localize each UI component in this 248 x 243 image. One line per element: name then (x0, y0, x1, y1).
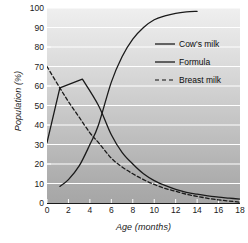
x-tick-label: 12 (164, 206, 188, 215)
x-tick-label: 2 (56, 206, 80, 215)
y-tick-label: 70 (4, 62, 44, 71)
y-tick-label: 60 (4, 82, 44, 91)
x-tick-marks (47, 199, 240, 203)
y-tick-label: 20 (4, 160, 44, 169)
x-tick-label: 16 (207, 206, 231, 215)
legend-swatch-solid-icon (155, 57, 175, 67)
legend-label: Breast milk (179, 76, 221, 85)
x-tick-label: 0 (35, 206, 59, 215)
legend-swatch-solid-icon (155, 39, 175, 49)
legend-item-cows-milk: Cow's milk (155, 35, 240, 53)
x-tick-label: 14 (185, 206, 209, 215)
y-tick-label: 90 (4, 23, 44, 32)
x-tick-label: 6 (99, 206, 123, 215)
series-line-formula (47, 79, 240, 199)
y-tick-label: 100 (4, 4, 44, 13)
legend-item-breast-milk: Breast milk (155, 71, 240, 89)
y-tick-label: 40 (4, 121, 44, 130)
x-tick-label: 8 (121, 206, 145, 215)
legend: Cow's milk Formula Breast milk (155, 35, 240, 89)
chart-figure: Population (%) 0102030405060708090100 Co… (0, 0, 248, 243)
x-tick-label: 10 (142, 206, 166, 215)
x-axis-title: Age (months) (47, 222, 240, 232)
y-tick-label: 50 (4, 101, 44, 110)
x-tick-label: 18 (228, 206, 248, 215)
x-axis-tick-labels: 024681012141618 (0, 206, 248, 220)
y-tick-marks (47, 28, 51, 184)
legend-label: Formula (179, 58, 210, 67)
legend-swatch-dashed-icon (155, 75, 175, 85)
legend-item-formula: Formula (155, 53, 240, 71)
y-tick-label: 10 (4, 179, 44, 188)
x-tick-label: 4 (78, 206, 102, 215)
y-tick-label: 30 (4, 140, 44, 149)
legend-label: Cow's milk (179, 40, 219, 49)
plot-area: Cow's milk Formula Breast milk (47, 8, 240, 204)
y-tick-label: 80 (4, 43, 44, 52)
